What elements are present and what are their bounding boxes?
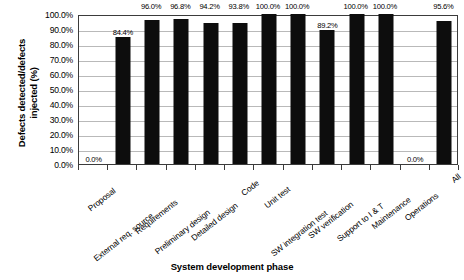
bar[interactable] [291,14,306,164]
bar[interactable] [115,37,130,164]
x-axis-category-label: Code [235,183,257,203]
x-axis-tick [400,165,401,170]
y-axis-tick-label: 20.0% [50,130,73,140]
bars-layer: 0.0%84.4%89.2%0.0% [79,16,457,164]
bar[interactable] [320,30,335,164]
y-axis-tick-label: 30.0% [50,115,73,125]
bar[interactable] [174,19,189,164]
bar-slot [430,16,459,164]
x-axis-tick [429,165,430,170]
y-axis-tick-label: 100.0% [45,10,73,20]
x-axis-category-label: Proposal [82,191,114,219]
y-axis-tick-label: 80.0% [50,40,73,50]
bar-value-labels-above-plot: 96.0%96.8%94.2%93.8%100.0%100.0%100.0%10… [78,0,458,15]
bar-slot: 0.0% [401,16,430,164]
y-axis-tick-label: 60.0% [50,70,73,80]
y-axis-title-line1: Defects detected/defects [16,39,28,147]
bar-value-label: 100.0% [256,2,280,11]
bar-slot: 0.0% [79,16,108,164]
bar-value-label: 0.0% [85,155,101,164]
x-axis-tick [458,165,459,170]
bar-value-label: 84.4% [113,28,133,37]
bar-slot [371,16,400,164]
bar[interactable] [232,23,247,164]
bar-value-label: 95.6% [433,2,453,11]
bar-slot [225,16,254,164]
x-axis-tick [224,165,225,170]
x-axis-tick [107,165,108,170]
x-axis-category-label: All [446,177,459,190]
y-axis-tick-label: 40.0% [50,100,73,110]
bar[interactable] [203,23,218,164]
bar[interactable] [349,14,364,164]
bar-value-label: 96.8% [170,2,190,11]
x-axis-tick [136,165,137,170]
x-axis-category-label: Unit test [259,189,289,215]
bar-slot [254,16,283,164]
bar-slot [284,16,313,164]
x-axis-tick [78,165,79,170]
x-axis-tick [195,165,196,170]
x-axis-category-label-text: Proposal [86,186,118,214]
bar-value-label: 0.0% [407,155,423,164]
bar-value-label: 100.0% [344,2,368,11]
x-axis-category-label-text: Code [239,178,261,198]
bar-slot [196,16,225,164]
bar-slot: 84.4% [108,16,137,164]
bar[interactable] [378,14,393,164]
bar[interactable] [145,20,160,164]
x-axis-category-label-text: All [450,171,463,184]
y-axis-tick-label: 70.0% [50,55,73,65]
bar[interactable] [261,14,276,164]
x-axis-tick [283,165,284,170]
y-axis-tick-labels: 100.0%90.0%80.0%70.0%60.0%50.0%40.0%30.0… [36,15,76,165]
y-axis-tick-label: 50.0% [50,85,73,95]
y-axis-tick-label: 0.0% [54,160,73,170]
bar-value-label: 93.8% [229,2,249,11]
x-axis-tick [166,165,167,170]
bar-value-label: 89.2% [317,21,337,30]
bar-slot [137,16,166,164]
bar-value-label: 96.0% [141,2,161,11]
y-axis-tick-label: 90.0% [50,25,73,35]
bar-value-label: 100.0% [373,2,397,11]
plot-area: 0.0%84.4%89.2%0.0% [78,15,458,165]
x-axis-tick [370,165,371,170]
bar-value-label: 100.0% [285,2,309,11]
x-axis-category-labels: ProposalExternal req. sourceRequirements… [78,171,458,251]
bar-chart: Defects detected/defects injected (%) 10… [0,0,464,280]
bar-slot [167,16,196,164]
bar-slot [342,16,371,164]
bar-slot: 89.2% [313,16,342,164]
x-axis-title: System development phase [0,261,464,272]
y-axis-tick-label: 10.0% [50,145,73,155]
bar-value-label: 94.2% [199,2,219,11]
x-axis-tick [341,165,342,170]
bar[interactable] [437,21,452,164]
x-axis-tick [253,165,254,170]
x-axis-tick [312,165,313,170]
x-axis-category-label-text: Unit test [262,184,292,210]
